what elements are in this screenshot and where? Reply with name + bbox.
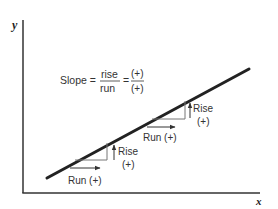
formula-denominator: run bbox=[100, 82, 115, 94]
rise-sign: (+) bbox=[122, 159, 135, 170]
rise-label: Rise bbox=[118, 146, 138, 157]
y-axis-label: y bbox=[10, 18, 18, 32]
formula-lhs: Slope = bbox=[60, 74, 96, 86]
rise-sign: (+) bbox=[197, 116, 210, 127]
formula-numerator: rise bbox=[101, 68, 118, 80]
x-axis-label: x bbox=[255, 195, 262, 207]
rise-run-triangle-1: Run (+) Rise (+) bbox=[68, 143, 138, 186]
formula-sign-denominator: (+) bbox=[131, 83, 144, 94]
run-label: Run (+) bbox=[143, 132, 177, 143]
slope-diagram: y x Slope = rise run = (+) (+) Run (+) R… bbox=[0, 0, 278, 209]
run-label: Run (+) bbox=[68, 175, 102, 186]
slope-formula: Slope = rise run = (+) (+) bbox=[60, 68, 144, 94]
formula-equals: = bbox=[123, 74, 129, 86]
triangle-1-legs bbox=[75, 143, 107, 160]
formula-sign-numerator: (+) bbox=[131, 68, 144, 79]
rise-label: Rise bbox=[193, 103, 213, 114]
triangle-2-legs bbox=[152, 101, 185, 119]
